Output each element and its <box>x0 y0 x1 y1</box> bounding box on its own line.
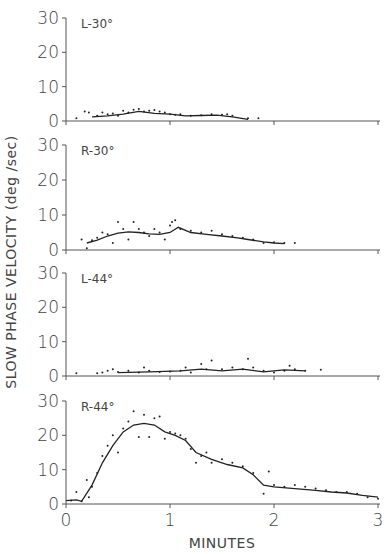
panel-label: L-44° <box>81 272 113 286</box>
x-tick-label: 2 <box>269 510 280 530</box>
data-point <box>75 491 77 493</box>
data-point <box>143 232 145 234</box>
data-point <box>294 368 296 370</box>
data-point <box>283 242 285 244</box>
data-point <box>315 488 317 490</box>
y-tick-label: 0 <box>48 111 59 131</box>
data-point <box>117 221 119 223</box>
data-point <box>226 113 228 115</box>
y-tick-label: 10 <box>37 205 59 225</box>
data-point <box>153 109 155 111</box>
y-tick-label: 0 <box>48 494 59 514</box>
data-point <box>211 230 213 232</box>
data-point <box>107 113 109 115</box>
data-point <box>112 368 114 370</box>
data-point <box>190 448 192 450</box>
data-point <box>174 433 176 435</box>
data-point <box>169 225 171 227</box>
data-point <box>112 434 114 436</box>
data-point <box>101 111 103 113</box>
data-point <box>169 113 171 115</box>
data-point <box>148 370 150 372</box>
data-point <box>107 370 109 372</box>
data-point <box>81 239 83 241</box>
data-point <box>86 479 88 481</box>
data-point <box>138 436 140 438</box>
panel-l-44: 0102030L-44° <box>37 263 380 386</box>
data-point <box>190 372 192 374</box>
data-point <box>242 368 244 370</box>
data-point <box>96 237 98 239</box>
x-tick-label: 1 <box>165 510 176 530</box>
data-point <box>164 438 166 440</box>
data-point <box>252 239 254 241</box>
data-point <box>169 431 171 433</box>
data-point <box>107 445 109 447</box>
data-point <box>231 115 233 117</box>
panel-l-30: 0102030L-30° <box>37 8 380 131</box>
data-point <box>91 486 93 488</box>
data-point <box>273 372 275 374</box>
data-point <box>107 233 109 235</box>
chart-canvas: 0102030L-30°0102030R-30°0102030L-44°0102… <box>0 0 392 554</box>
data-point <box>117 115 119 117</box>
data-point <box>268 470 270 472</box>
x-axis-title: MINUTES <box>189 535 256 551</box>
data-point <box>70 500 72 502</box>
y-tick-label: 10 <box>37 460 59 480</box>
data-point <box>148 235 150 237</box>
y-tick-label: 10 <box>37 77 59 97</box>
data-point <box>101 372 103 374</box>
y-tick-label: 0 <box>48 366 59 386</box>
fit-line <box>92 111 248 119</box>
y-tick-label: 30 <box>37 391 59 411</box>
data-point <box>143 366 145 368</box>
data-point <box>221 114 223 116</box>
y-tick-label: 30 <box>37 8 59 28</box>
panel-label: R-44° <box>81 400 114 414</box>
data-point <box>153 228 155 230</box>
data-point <box>231 366 233 368</box>
data-point <box>84 110 86 112</box>
data-point <box>273 241 275 243</box>
data-point <box>252 366 254 368</box>
data-point <box>190 230 192 232</box>
data-point <box>138 372 140 374</box>
data-point <box>263 493 265 495</box>
data-point <box>377 498 379 500</box>
data-point <box>294 484 296 486</box>
data-point <box>247 117 249 119</box>
data-point <box>122 427 124 429</box>
data-point <box>159 232 161 234</box>
y-tick-label: 20 <box>37 42 59 62</box>
data-point <box>231 235 233 237</box>
data-point <box>221 368 223 370</box>
data-point <box>320 369 322 371</box>
data-point <box>179 113 181 115</box>
panel-label: R-30° <box>81 144 114 158</box>
data-point <box>148 436 150 438</box>
fit-line <box>118 369 305 373</box>
data-point <box>367 496 369 498</box>
data-point <box>252 472 254 474</box>
data-point <box>117 452 119 454</box>
data-point <box>91 239 93 241</box>
y-tick-label: 0 <box>48 240 59 260</box>
panel-r-44: 0102030R-44° <box>37 391 380 514</box>
data-point <box>231 462 233 464</box>
data-point <box>101 232 103 234</box>
y-axis-title: SLOW PHASE VELOCITY (deg /sec) <box>3 135 19 389</box>
panel-label: L-30° <box>81 17 113 31</box>
data-point <box>122 110 124 112</box>
data-point <box>242 465 244 467</box>
data-point <box>117 371 119 373</box>
data-point <box>127 239 129 241</box>
data-point <box>200 114 202 116</box>
data-point <box>164 111 166 113</box>
data-point <box>263 370 265 372</box>
data-point <box>257 117 259 119</box>
data-point <box>304 486 306 488</box>
data-point <box>294 242 296 244</box>
data-point <box>263 242 265 244</box>
data-point <box>88 111 90 113</box>
